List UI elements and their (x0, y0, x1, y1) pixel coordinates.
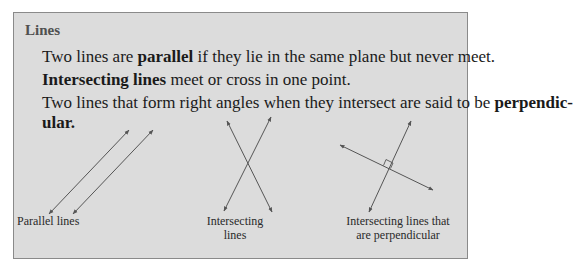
intersecting-lines-figure (224, 117, 272, 212)
term-perpendicular: perpendic- (494, 93, 572, 112)
caption-text: are perpendicular (328, 228, 468, 242)
caption-text: lines (195, 228, 275, 242)
caption-parallel: Parallel lines (17, 214, 79, 228)
caption-text: Intersecting (195, 214, 275, 228)
caption-perpendicular: Intersecting lines thatare perpendicular (328, 214, 468, 242)
parallel-lines-figure (49, 130, 153, 214)
caption-intersecting: Intersectinglines (195, 214, 275, 242)
perpendicular-lines-figure (340, 121, 433, 212)
caption-text: Parallel lines (17, 214, 79, 228)
caption-text: Intersecting lines that (328, 214, 468, 228)
